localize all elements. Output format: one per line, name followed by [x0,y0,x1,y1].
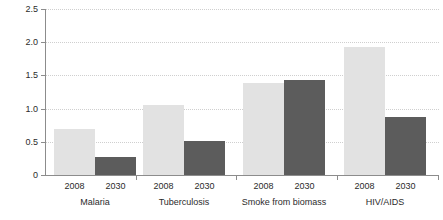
x-group-label: HIV/AIDS [314,197,443,207]
x-group-separator-tick [337,175,338,180]
x-year-label: 2008 [54,181,95,191]
y-tick-label: 2.5 [16,4,38,14]
y-tick-label: 2.0 [16,37,38,47]
x-axis-line [45,175,439,176]
x-year-label: 2030 [95,181,136,191]
x-year-label: 2008 [243,181,284,191]
bar [385,117,426,175]
bar [95,157,136,175]
x-group-separator-tick [136,175,137,180]
x-year-label: 2030 [284,181,325,191]
x-group-separator-tick [236,175,237,180]
bar [143,105,184,175]
y-tick-label: 1.0 [16,104,38,114]
y-tick-label: 0.5 [16,137,38,147]
bar [344,47,385,175]
x-year-label: 2008 [344,181,385,191]
x-year-label: 2008 [143,181,184,191]
bar-chart: Million 2.52.01.51.00.50 20082030Malaria… [0,0,443,220]
bar [284,80,325,175]
x-axis-end-tick [438,175,439,180]
bar [184,141,225,175]
x-year-label: 2030 [385,181,426,191]
bars-layer [46,9,439,175]
x-year-label: 2030 [184,181,225,191]
y-tick-label: 0 [16,170,38,180]
bar [54,129,95,175]
bar [243,83,284,175]
y-tick-label: 1.5 [16,70,38,80]
